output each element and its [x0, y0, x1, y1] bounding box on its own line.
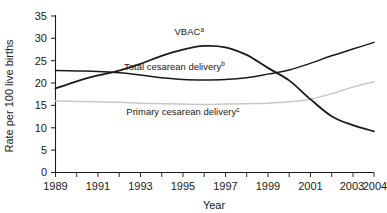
y-tick-label-20: 20 [35, 77, 47, 89]
x-tick-label-1989: 1989 [43, 180, 67, 192]
x-tick-label-1993: 1993 [128, 180, 152, 192]
x-tick-label-1999: 1999 [256, 180, 280, 192]
series-lines [56, 42, 375, 131]
x-axis-ticks: 1989 1991 1993 1995 1997 1999 2001 2003 … [43, 173, 387, 193]
y-tick-label-5: 5 [41, 144, 47, 156]
series-line-vbac [56, 46, 375, 132]
series-line-primary-cesarean-delivery [56, 82, 375, 105]
y-axis-ticks: 0 5 10 15 20 25 30 35 [35, 10, 56, 179]
y-tick-label-35: 35 [35, 10, 47, 22]
y-axis-title: Rate per 100 live births [3, 39, 15, 153]
y-tick-label-0: 0 [41, 166, 47, 178]
y-tick-label-30: 30 [35, 32, 47, 44]
series-label-primary-cesarean-delivery: Primary cesarean deliveryc [126, 106, 240, 117]
x-tick-label-2001: 2001 [298, 180, 322, 192]
x-tick-label-1997: 1997 [213, 180, 237, 192]
y-axis-title-text: Rate per 100 live births [3, 39, 15, 153]
x-tick-label-1995: 1995 [171, 180, 195, 192]
series-label-total-cesarean-delivery: Total cesarean deliveryb [124, 60, 225, 71]
x-tick-label-1991: 1991 [86, 180, 110, 192]
chart-figure: Rate per 100 live births 0 5 10 15 20 25… [0, 0, 387, 213]
y-tick-label-15: 15 [35, 99, 47, 111]
y-tick-label-10: 10 [35, 122, 47, 134]
axes [55, 15, 374, 173]
x-axis-title-text: Year [203, 199, 226, 211]
y-tick-label-25: 25 [35, 55, 47, 67]
x-tick-label-2003: 2003 [340, 180, 364, 192]
line-chart-svg: Rate per 100 live births 0 5 10 15 20 25… [0, 0, 387, 213]
x-tick-label-2004: 2004 [363, 180, 387, 192]
series-label-vbac: VBACa [175, 26, 205, 37]
